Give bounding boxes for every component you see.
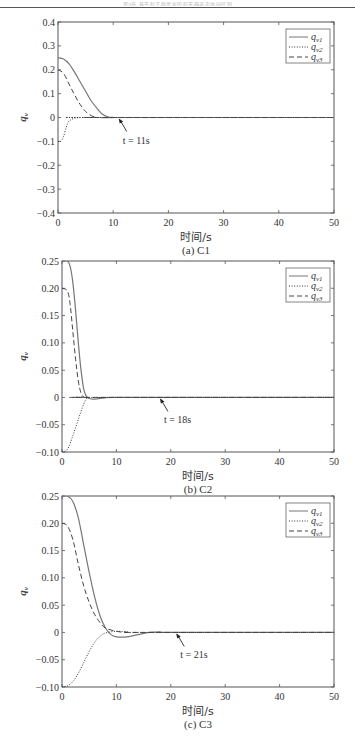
x-tick-label: 20	[166, 691, 176, 702]
y-tick-label: 0.25	[42, 491, 60, 502]
y-tick-label: 0.15	[42, 545, 60, 556]
panel-caption: (c) C3	[184, 718, 212, 731]
arrow-head-icon	[176, 633, 181, 638]
y-tick-label: 0.10	[42, 572, 60, 583]
x-tick-label: 10	[111, 691, 121, 702]
y-tick-label: −0.10	[36, 682, 59, 693]
x-tick-label: 30	[220, 691, 230, 702]
legend-box	[286, 503, 330, 537]
annotation-text: t = 21s	[180, 649, 207, 660]
y-axis-label: qv	[16, 586, 30, 596]
x-tick-label: 40	[275, 691, 285, 702]
series-line-q-v3	[62, 523, 334, 632]
y-tick-label: 0.05	[42, 600, 60, 611]
y-tick-label: 0.20	[42, 518, 60, 529]
x-tick-label: 0	[60, 691, 65, 702]
y-tick-label: 0	[54, 627, 59, 638]
y-tick-label: −0.05	[36, 654, 59, 665]
x-tick-label: 50	[329, 691, 339, 702]
x-axis-label: 时间/s	[182, 705, 214, 718]
chart-panel-c: 0.250.200.150.100.050−0.05−0.10010203040…	[0, 0, 355, 752]
